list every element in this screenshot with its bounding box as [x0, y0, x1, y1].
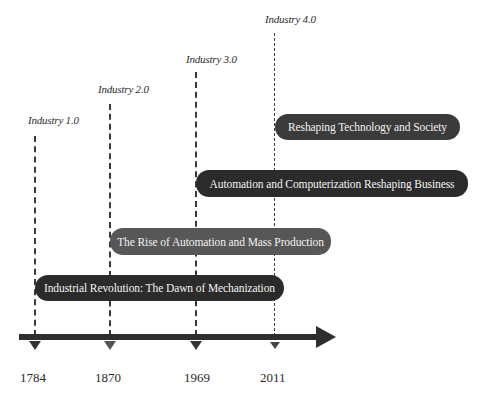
era-pill-industry-2: The Rise of Automation and Mass Producti… — [110, 228, 331, 255]
era-pill-industry-1: Industrial Revolution: The Dawn of Mecha… — [35, 275, 284, 301]
down-arrow-icon-1870 — [103, 340, 117, 352]
era-label-industry-4: Industry 4.0 — [265, 13, 316, 25]
down-arrow-icon-1784 — [28, 340, 42, 352]
year-label-2011: 2011 — [260, 370, 286, 386]
timeline-axis-arrow — [0, 320, 360, 360]
down-arrow-icon-2011 — [269, 341, 281, 351]
industry-timeline-diagram: Industry 1.0 Industry 2.0 Industry 3.0 I… — [0, 0, 478, 401]
era-label-industry-2: Industry 2.0 — [98, 83, 149, 95]
era-pill-industry-3: Automation and Computerization Reshaping… — [196, 170, 468, 197]
year-label-1969: 1969 — [184, 370, 210, 386]
down-arrow-icon-1969 — [189, 340, 203, 352]
era-label-industry-3: Industry 3.0 — [186, 53, 237, 65]
year-label-1870: 1870 — [95, 370, 121, 386]
era-pill-industry-4: Reshaping Technology and Society — [275, 114, 460, 140]
era-line-industry-2 — [109, 104, 111, 336]
era-line-industry-1 — [34, 136, 36, 336]
year-label-1784: 1784 — [20, 370, 46, 386]
era-label-industry-1: Industry 1.0 — [28, 114, 79, 126]
